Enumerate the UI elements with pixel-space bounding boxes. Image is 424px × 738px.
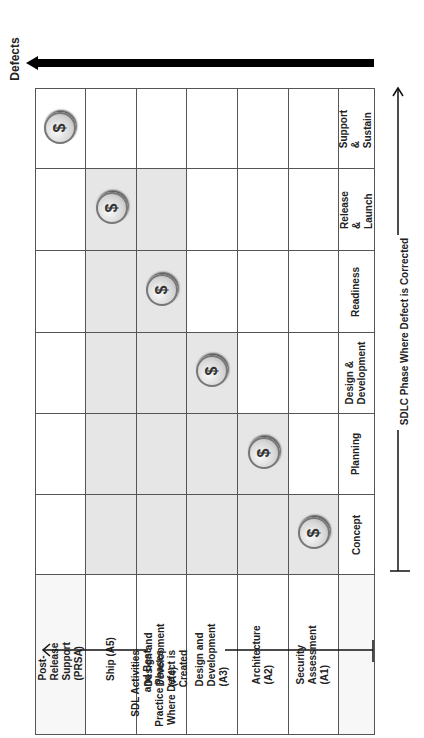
- y-axis-label: SDL Activities and Best Practice Phases …: [110, 650, 210, 730]
- dollar-coin-icon: $: [146, 274, 178, 306]
- corrected-phase-label: Concept: [338, 494, 375, 575]
- dollar-coin-icon: $: [298, 517, 330, 549]
- dollar-coin-icon: $: [248, 437, 280, 469]
- y-axis-arrow-icon: [40, 640, 420, 730]
- defects-label: Defects: [8, 34, 22, 84]
- defects-arrow-icon: [26, 56, 374, 68]
- corrected-phase-label: Planning: [338, 413, 375, 495]
- dollar-coin-icon: $: [96, 192, 128, 224]
- corrected-phase-label: Release & Launch: [338, 168, 375, 251]
- dollar-coin-icon: $: [196, 355, 228, 387]
- corrected-phase-label: Design & Development: [338, 332, 375, 414]
- dollar-coin-icon: $: [44, 112, 76, 144]
- corrected-phase-label: Support & Sustain: [338, 88, 375, 169]
- corrected-phase-label: Readiness: [338, 250, 375, 333]
- x-axis-label: SDLC Phase Where Defect is Corrected: [399, 232, 410, 432]
